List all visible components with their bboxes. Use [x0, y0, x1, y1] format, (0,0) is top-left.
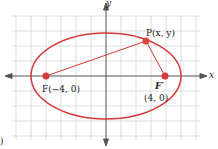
focus-left-label: F(−4, 0): [42, 84, 80, 94]
y-axis-label: y: [106, 0, 111, 8]
ellipse-diagram: [0, 0, 218, 149]
focus-right-label: F′: [155, 81, 164, 91]
axes: [5, 3, 207, 146]
focus-left-point: [43, 73, 50, 80]
point-p-label: P(x, y): [146, 28, 175, 38]
corner-mark: ): [0, 136, 4, 146]
point-p: [143, 38, 150, 45]
x-axis-label: x: [209, 70, 214, 80]
focus-right-coords: (4, 0): [144, 93, 168, 103]
focus-right-point: [162, 73, 169, 80]
